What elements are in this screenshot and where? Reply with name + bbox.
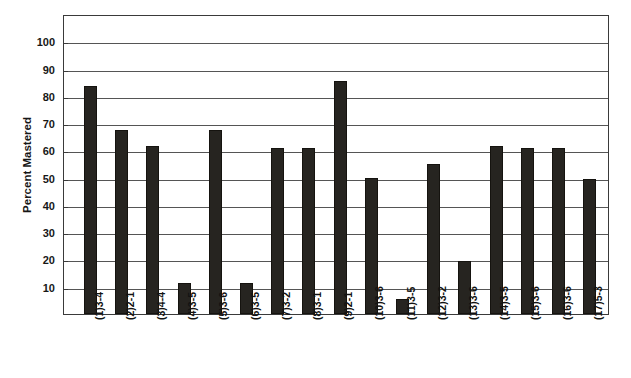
bar [334,81,347,314]
x-tick-label: (11)3-5 [406,287,417,320]
y-tick-label: 30 [7,228,55,239]
y-tick-label: 40 [7,200,55,211]
bar [209,130,222,314]
y-tick-label: 90 [7,64,55,75]
x-tick-label: (4)3-5 [187,292,198,320]
x-tick-label: (9)2-1 [343,292,354,320]
x-tick-label: (17)5-3 [593,286,604,320]
x-axis-labels: (1)3-4(2)2-1(3)4-4(4)3-5(5)3-6(6)3-5(7)3… [63,318,609,378]
x-tick-label: (1)3-4 [94,292,105,320]
x-tick-label: (2)2-1 [125,292,136,320]
plot-area [63,15,609,315]
bar [271,148,284,314]
bar [84,86,97,314]
bar-chart: Percent Mastered 102030405060708090100 (… [0,0,631,378]
y-tick-label: 70 [7,119,55,130]
y-tick-label: 50 [7,173,55,184]
x-tick-label: (14)3-5 [499,286,510,320]
y-tick-label: 100 [7,37,55,48]
x-tick-label: (10)3-6 [374,286,385,320]
y-axis-title: Percent Mastered [16,15,38,315]
x-tick-label: (12)3-2 [437,286,448,320]
x-tick-label: (6)3-5 [250,292,261,320]
x-tick-label: (13)3-6 [468,286,479,320]
x-tick-label: (15)3-6 [530,286,541,320]
y-tick-label: 80 [7,91,55,102]
y-tick-label: 20 [7,255,55,266]
bar [302,148,315,314]
y-axis-title-text: Percent Mastered [21,117,33,213]
x-tick-label: (3)4-4 [156,292,167,320]
bar [146,146,159,314]
bar [115,130,128,314]
bars-group [64,16,608,314]
x-tick-label: (8)3-1 [312,292,323,320]
x-tick-label: (16)3-6 [562,286,573,320]
y-tick-label: 10 [7,282,55,293]
x-tick-label: (7)3-2 [281,292,292,320]
y-tick-label: 60 [7,146,55,157]
x-tick-label: (5)3-6 [218,292,229,320]
